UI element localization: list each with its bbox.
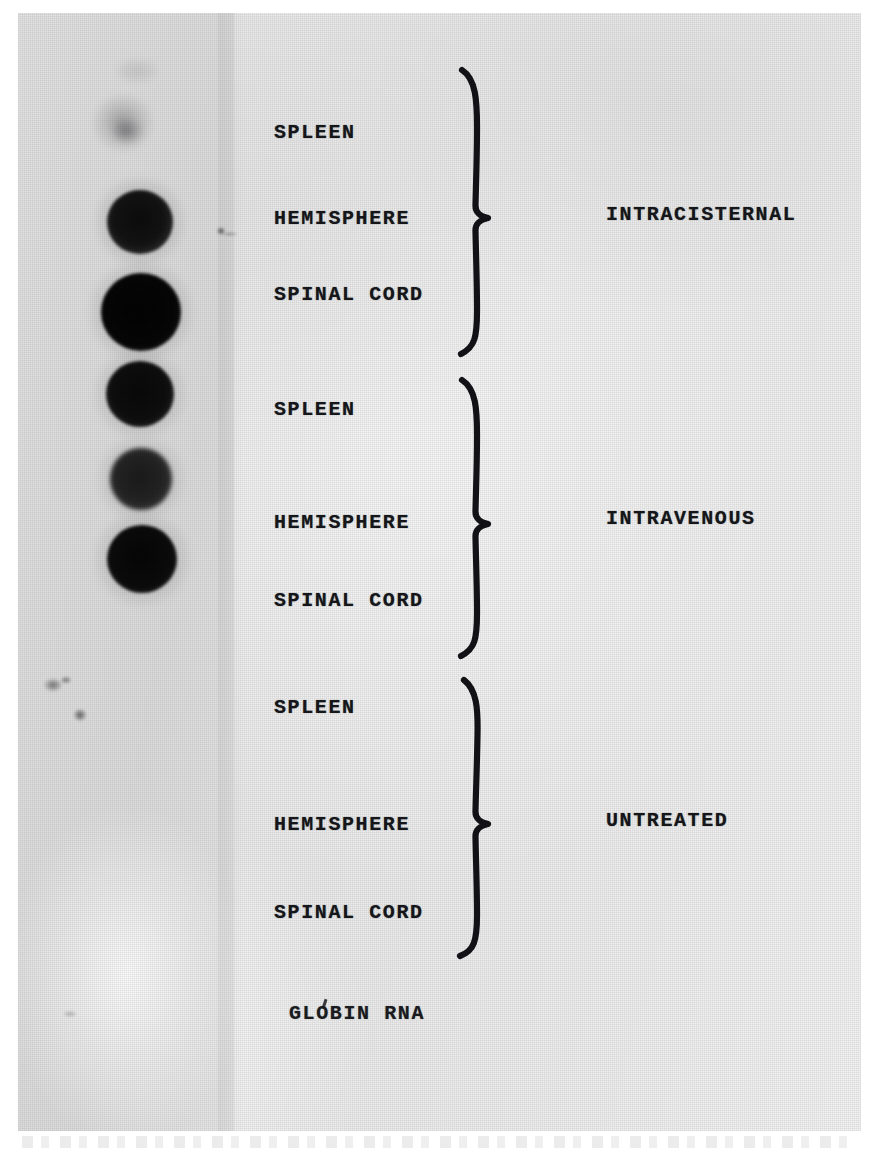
film-artifact-speck (223, 232, 237, 236)
figure-bottom-caption: GLOBIN RNA (289, 1004, 425, 1024)
blot-spot-intravenous-spleen (106, 361, 174, 427)
sample-label-intravenous-spinalcord: SPINAL CORD (274, 591, 424, 611)
sample-label-intravenous-spleen: SPLEEN (274, 400, 356, 420)
figure-root: SPLEEN HEMISPHERE SPINAL CORD INTRACISTE… (0, 0, 878, 1154)
group-brace-untreated (450, 675, 498, 957)
blot-spot-untreated-spleen (140, 734, 142, 736)
film-strip (18, 13, 234, 1131)
blot-spot-intracisternal-spinalcord (101, 273, 181, 351)
treatment-label-untreated: UNTREATED (606, 811, 728, 831)
film-artifact-speck (64, 1011, 77, 1017)
sample-label-intravenous-hemisphere: HEMISPHERE (274, 513, 410, 533)
blot-spot-untreated-spinalcord (140, 925, 142, 927)
film-artifact-speck (117, 60, 157, 82)
group-brace-intravenous (450, 375, 498, 657)
sample-label-intracisternal-spinalcord: SPINAL CORD (274, 285, 424, 305)
film-artifact-speck (61, 677, 71, 684)
group-brace-intracisternal (450, 65, 498, 355)
blot-spot-untreated-hemisphere (140, 830, 142, 832)
blot-spot-intracisternal-hemisphere (107, 190, 173, 254)
blot-spot-intravenous-hemisphere (110, 448, 172, 510)
sample-label-intracisternal-hemisphere: HEMISPHERE (274, 209, 410, 229)
film-artifact-speck (44, 679, 62, 692)
autoradiograph-plate: SPLEEN HEMISPHERE SPINAL CORD INTRACISTE… (18, 13, 861, 1131)
treatment-label-intravenous: INTRAVENOUS (606, 509, 756, 529)
sample-label-untreated-spleen: SPLEEN (274, 698, 356, 718)
page-bleedthrough-text (22, 1136, 852, 1148)
film-artifact-speck (73, 709, 87, 721)
blot-spot-intracisternal-spleen-core (113, 118, 143, 144)
sample-label-untreated-hemisphere: HEMISPHERE (274, 815, 410, 835)
sample-label-untreated-spinalcord: SPINAL CORD (274, 903, 424, 923)
blot-spot-intravenous-spinalcord (107, 525, 177, 593)
treatment-label-intracisternal: INTRACISTERNAL (606, 205, 796, 225)
sample-label-intracisternal-spleen: SPLEEN (274, 123, 356, 143)
